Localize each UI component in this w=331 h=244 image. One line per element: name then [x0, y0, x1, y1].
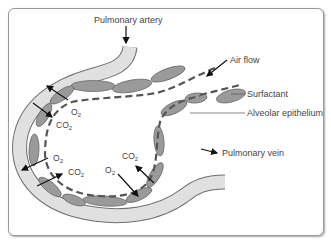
gas-label-co2: CO2: [68, 167, 85, 178]
gas-label-co2: CO2: [122, 151, 139, 162]
pulmonary-vein-arrow: [201, 149, 217, 153]
epithelial-cell: [28, 134, 39, 166]
gas-label-co2: CO2: [56, 120, 73, 131]
label-pulmonary-artery: Pulmonary artery: [94, 15, 163, 25]
gas-label-o2: O2: [53, 153, 64, 164]
epithelial-cell: [215, 86, 247, 105]
label-air-flow: Air flow: [230, 55, 260, 65]
label-alveolar-epithelium: Alveolar epithelium: [247, 108, 323, 118]
epithelial-cell: [111, 77, 152, 96]
gas-label-o2: O2: [105, 165, 116, 176]
label-surfactant: Surfactant: [247, 89, 289, 99]
air-flow-arrow: [207, 60, 227, 76]
gas-labels: O2 CO2 O2 CO2 CO2 O2: [53, 107, 139, 178]
epithelial-cell: [153, 126, 166, 157]
epithelial-cell: [149, 63, 187, 86]
o2-arrow: [118, 174, 138, 196]
alveolus-diagram: O2 CO2 O2 CO2 CO2 O2 Pulmonary artery Ai…: [0, 0, 331, 244]
epithelial-cell: [71, 81, 115, 92]
gas-label-o2: O2: [71, 107, 82, 118]
label-pulmonary-vein: Pulmonary vein: [222, 148, 284, 158]
